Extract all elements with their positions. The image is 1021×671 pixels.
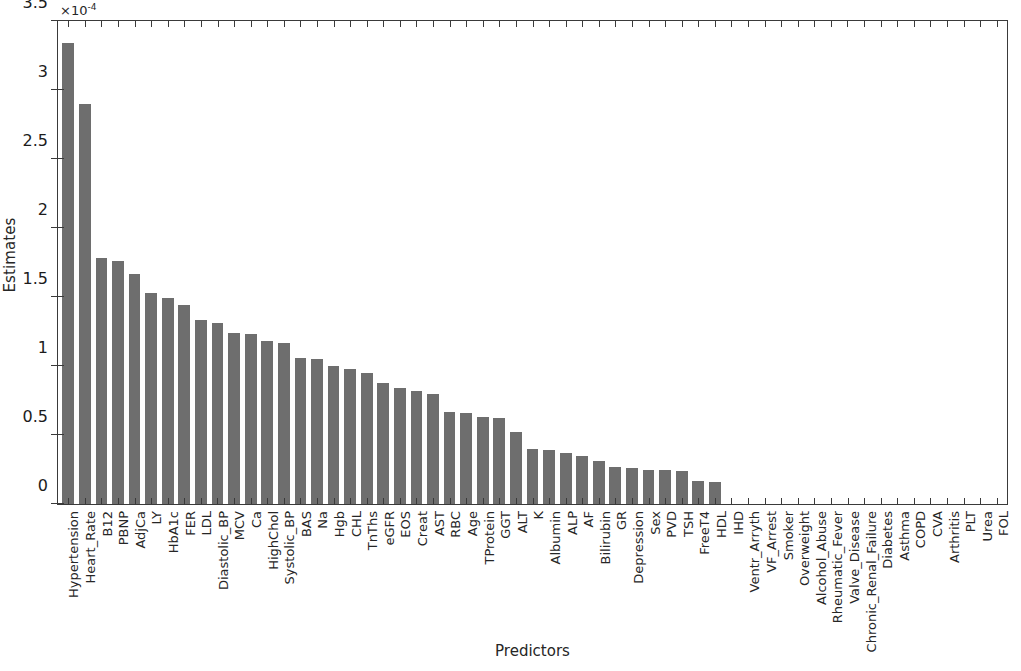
x-axis-tick-label-slot: FreeT4 bbox=[690, 509, 707, 634]
x-axis-tick-top bbox=[748, 21, 749, 27]
x-axis-tick-top bbox=[383, 21, 384, 27]
x-axis-tick bbox=[881, 498, 882, 504]
x-axis-tick bbox=[698, 498, 699, 504]
x-axis-tick bbox=[798, 498, 799, 504]
x-axis-tick-label-slot: PLT bbox=[956, 509, 973, 634]
x-axis-tick-top bbox=[947, 21, 948, 27]
x-axis-tick-label-slot: Depression bbox=[624, 509, 641, 634]
x-axis-tick-label-slot: Bilirubin bbox=[591, 509, 608, 634]
x-axis-tick bbox=[499, 498, 500, 504]
x-axis-tick-top bbox=[201, 21, 202, 27]
bar-slot bbox=[889, 21, 906, 504]
x-axis-tick bbox=[582, 498, 583, 504]
bar bbox=[427, 394, 439, 504]
y-axis-title: Estimates bbox=[0, 0, 20, 510]
x-axis-tick bbox=[184, 498, 185, 504]
x-axis-tick-label-slot: Ca bbox=[242, 509, 259, 634]
x-axis-tick-top bbox=[350, 21, 351, 27]
bar-slot bbox=[491, 21, 508, 504]
x-axis-tick-top bbox=[715, 21, 716, 27]
x-axis-tick-top bbox=[151, 21, 152, 27]
x-axis-tick-top bbox=[135, 21, 136, 27]
bar-slot bbox=[905, 21, 922, 504]
x-axis-tick-label-slot: TSH bbox=[674, 509, 691, 634]
x-axis-tick bbox=[632, 498, 633, 504]
x-axis-tick-label-slot: Asthma bbox=[889, 509, 906, 634]
bar-slot bbox=[176, 21, 193, 504]
y-axis-tick bbox=[51, 89, 58, 90]
x-axis-tick-label-slot: FOL bbox=[989, 509, 1006, 634]
x-axis-tick-label-slot: CHL bbox=[341, 509, 358, 634]
x-axis-tick-top bbox=[881, 21, 882, 27]
x-axis-tick-top bbox=[300, 21, 301, 27]
x-axis-tick-label-slot: MCV bbox=[225, 509, 242, 634]
x-axis-tick bbox=[334, 498, 335, 504]
x-axis-tick bbox=[715, 498, 716, 504]
x-axis-tick-label-slot: Overweight bbox=[790, 509, 807, 634]
x-axis-tick bbox=[85, 498, 86, 504]
x-axis-tick-top bbox=[864, 21, 865, 27]
x-axis-tick bbox=[914, 498, 915, 504]
x-axis-tick-top bbox=[450, 21, 451, 27]
x-axis-tick-label-slot: Systolic_BP bbox=[275, 509, 292, 634]
x-axis-tick bbox=[566, 498, 567, 504]
x-axis-tick bbox=[599, 498, 600, 504]
bar-slot bbox=[209, 21, 226, 504]
bar bbox=[444, 412, 456, 504]
x-axis-tick-top bbox=[68, 21, 69, 27]
bar bbox=[576, 456, 588, 504]
x-axis-tick bbox=[765, 498, 766, 504]
x-axis-tick-label-slot: Sex bbox=[640, 509, 657, 634]
x-axis-tick bbox=[649, 498, 650, 504]
x-axis-tick-top bbox=[334, 21, 335, 27]
bar bbox=[311, 359, 323, 504]
x-axis-tick-label-slot: ALT bbox=[507, 509, 524, 634]
x-axis-tick-label-slot: Hgb bbox=[325, 509, 342, 634]
x-axis-tick bbox=[450, 498, 451, 504]
bar bbox=[394, 388, 406, 504]
x-axis-tick-label-slot: Chronic_Renal_Failure bbox=[856, 509, 873, 634]
bar-slot bbox=[392, 21, 409, 504]
x-axis-tick-top bbox=[599, 21, 600, 27]
y-axis-tick-label: 1 bbox=[38, 338, 48, 357]
x-axis-tick-label-slot: GGT bbox=[491, 509, 508, 634]
x-axis-tick-label-slot: PVD bbox=[657, 509, 674, 634]
x-axis-tick-top bbox=[698, 21, 699, 27]
x-axis-tick-label-slot: PBNP bbox=[109, 509, 126, 634]
y-axis-tick-label: 3 bbox=[38, 62, 48, 81]
bar bbox=[295, 358, 307, 504]
y-axis-tick bbox=[51, 227, 58, 228]
bar-slot bbox=[541, 21, 558, 504]
x-axis-tick bbox=[168, 498, 169, 504]
x-axis-tick-top bbox=[101, 21, 102, 27]
bar-slot bbox=[723, 21, 740, 504]
bar-slot bbox=[955, 21, 972, 504]
bar-slot bbox=[707, 21, 724, 504]
x-axis-tick bbox=[897, 498, 898, 504]
y-axis-tick-inner bbox=[58, 434, 64, 435]
bar-slot bbox=[557, 21, 574, 504]
x-axis-tick bbox=[848, 498, 849, 504]
y-axis-tick bbox=[51, 158, 58, 159]
x-axis-tick-top bbox=[665, 21, 666, 27]
x-axis-tick-top bbox=[964, 21, 965, 27]
bar bbox=[460, 413, 472, 504]
bar-slot bbox=[856, 21, 873, 504]
x-axis-tick-label-slot: Smoker bbox=[773, 509, 790, 634]
bar-slot bbox=[773, 21, 790, 504]
x-axis-tick bbox=[964, 498, 965, 504]
y-axis-exponent-base: ×10 bbox=[60, 3, 87, 18]
x-axis-tick bbox=[533, 498, 534, 504]
x-axis-tick bbox=[930, 498, 931, 504]
x-axis-tick-label-slot: GR bbox=[607, 509, 624, 634]
bar bbox=[79, 104, 91, 504]
bar bbox=[245, 334, 257, 504]
bar-slot bbox=[259, 21, 276, 504]
x-axis-tick bbox=[615, 498, 616, 504]
x-axis-tick bbox=[947, 498, 948, 504]
x-axis-tick-top bbox=[731, 21, 732, 27]
x-axis-tick bbox=[201, 498, 202, 504]
x-axis-tick-top bbox=[118, 21, 119, 27]
x-axis-tick bbox=[251, 498, 252, 504]
bar-slot bbox=[342, 21, 359, 504]
